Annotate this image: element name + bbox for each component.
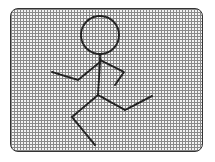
figure-head	[81, 16, 119, 54]
figure-left-leg	[72, 95, 98, 145]
figure-right-arm	[100, 60, 124, 85]
figure-right-leg	[98, 95, 152, 110]
stick-figure	[0, 0, 215, 162]
figure-left-arm	[52, 62, 100, 80]
